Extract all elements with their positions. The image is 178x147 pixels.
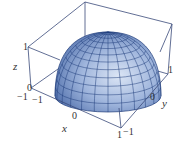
y-tick-neg1: −1 <box>123 127 134 137</box>
x-tick-1: 1 <box>117 130 122 140</box>
hemisphere-plot <box>0 0 178 147</box>
y-tick-1: 1 <box>168 65 173 75</box>
z-axis-label: z <box>13 61 17 72</box>
y-axis-label: y <box>162 98 167 109</box>
y-tick-0: 0 <box>150 92 155 102</box>
z-tick-1: 1 <box>23 42 28 52</box>
x-axis-label: x <box>62 123 67 134</box>
x-tick-neg1: −1 <box>32 95 43 105</box>
x-tick-0: 0 <box>72 111 77 121</box>
z-tick-0: 0 <box>27 83 32 93</box>
y-tick-neg1-left: −1 <box>17 92 28 102</box>
